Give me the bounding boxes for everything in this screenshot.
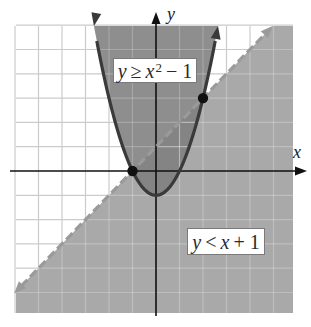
label-variable: x (146, 61, 155, 81)
label-operator: ≥ (131, 61, 142, 81)
inequality-graph: x y y ≥ x2 − 1 y < x + 1 (0, 0, 311, 327)
intersection-point (127, 166, 137, 176)
x-axis-label: x (293, 143, 301, 161)
label-lhs: y (118, 61, 127, 81)
label-constant: − 1 (166, 61, 192, 81)
label-exponent: 2 (155, 61, 162, 74)
coordinate-plane (0, 0, 311, 327)
x-axis-arrow-icon (295, 167, 307, 176)
parabola-inequality-label: y ≥ x2 − 1 (113, 58, 197, 83)
y-axis-label: y (167, 5, 175, 23)
intersection-point (198, 93, 208, 103)
line-inequality-label: y < x + 1 (187, 228, 265, 255)
label-lhs: y (192, 232, 201, 252)
label-variable: x (221, 232, 230, 252)
label-operator: < (205, 232, 216, 252)
parabola-arrow-icon (91, 12, 101, 26)
label-constant: + 1 (233, 232, 259, 252)
y-axis-arrow-icon (152, 12, 161, 24)
